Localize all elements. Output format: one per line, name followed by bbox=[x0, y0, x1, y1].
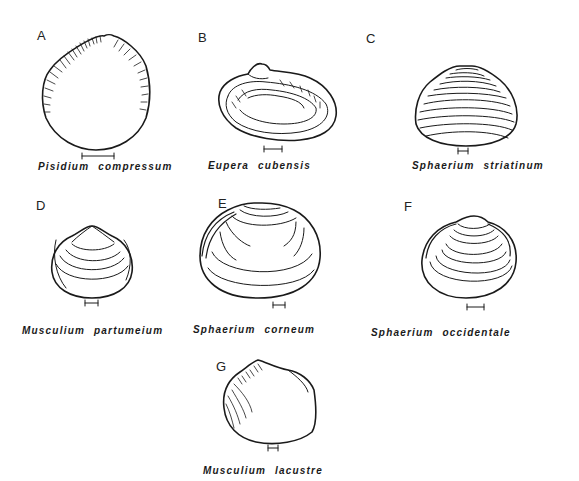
species-caption-f: Sphaerium occidentale bbox=[371, 327, 511, 338]
species-caption-d: Musculium partumeium bbox=[22, 325, 163, 336]
species-caption-b: Eupera cubensis bbox=[208, 160, 311, 171]
shell-drawing-d bbox=[52, 226, 133, 306]
panel-label-a: A bbox=[37, 28, 46, 43]
shell-drawing-b bbox=[219, 64, 336, 152]
scale-bar bbox=[273, 302, 285, 308]
shell-drawing-a bbox=[43, 35, 150, 160]
panel-label-b: B bbox=[198, 30, 207, 45]
species-caption-g: Musculium lacustre bbox=[203, 465, 323, 476]
scale-bar bbox=[467, 304, 484, 310]
panel-label-g: G bbox=[216, 359, 226, 374]
scale-bar bbox=[264, 146, 282, 152]
scale-bar bbox=[268, 445, 278, 451]
shell-drawing-e bbox=[200, 203, 320, 308]
scale-bar bbox=[458, 148, 468, 154]
panel-label-f: F bbox=[404, 199, 412, 214]
panel-label-e: E bbox=[218, 196, 227, 211]
panel-label-d: D bbox=[36, 198, 45, 213]
panel-label-c: C bbox=[366, 31, 375, 46]
shell-illustrations bbox=[0, 0, 579, 481]
species-caption-a: Pisidium compressum bbox=[38, 161, 173, 172]
species-caption-c: Sphaerium striatinum bbox=[412, 160, 544, 171]
shell-drawing-c bbox=[416, 66, 518, 154]
scale-bar bbox=[85, 300, 98, 306]
scale-bar bbox=[82, 153, 114, 159]
shell-drawing-g bbox=[224, 360, 316, 451]
shell-drawing-f bbox=[422, 216, 516, 310]
species-caption-e: Sphaerium corneum bbox=[193, 324, 315, 335]
